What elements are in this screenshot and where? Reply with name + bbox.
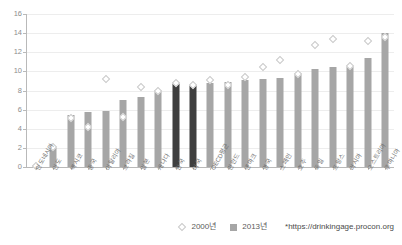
- legend-item-2000: 2000년: [179, 223, 216, 231]
- chart-column: [324, 14, 341, 167]
- marker-2000: [259, 62, 267, 70]
- marker-2000: [329, 35, 337, 43]
- chart-column: [254, 14, 271, 167]
- plot-area: [26, 14, 394, 168]
- bar-2013: [172, 84, 179, 167]
- legend-label-2000: 2000년: [191, 223, 216, 231]
- bar-2013: [137, 97, 144, 167]
- source-note: *https://drinkingage.procon.org: [285, 223, 394, 231]
- legend-label-2013: 2013년: [242, 223, 267, 231]
- chart-column: [237, 14, 254, 167]
- bar-2013: [364, 58, 371, 167]
- marker-2000: [311, 40, 319, 48]
- chart-column: [202, 14, 219, 167]
- bar-2013: [190, 85, 197, 167]
- bar-2013: [224, 82, 231, 167]
- bar-2013: [277, 78, 284, 167]
- y-axis-tick-mark: [23, 91, 26, 92]
- y-axis-tick-mark: [23, 71, 26, 72]
- chart-column: [167, 14, 184, 167]
- y-axis-tick-label: 4: [2, 125, 22, 133]
- y-axis-tick-mark: [23, 52, 26, 53]
- marker-2000: [364, 37, 372, 45]
- y-axis-tick-mark: [23, 14, 26, 15]
- y-axis-tick-mark: [23, 129, 26, 130]
- bars-layer: [27, 14, 394, 167]
- chart-column: [114, 14, 131, 167]
- chart-column: [97, 14, 114, 167]
- chart-column: [184, 14, 201, 167]
- bar-2013: [329, 67, 336, 167]
- y-axis-tick-label: 8: [2, 87, 22, 95]
- legend-item-2013: 2013년: [230, 223, 267, 231]
- chart-column: [307, 14, 324, 167]
- bar-swatch-icon: [230, 224, 237, 231]
- bar-2013: [207, 83, 214, 167]
- chart-column: [27, 14, 44, 167]
- bar-2013: [347, 67, 354, 167]
- chart-column: [359, 14, 376, 167]
- chart-column: [272, 14, 289, 167]
- y-axis-tick-label: 2: [2, 144, 22, 152]
- marker-2000: [276, 56, 284, 64]
- marker-2000: [136, 82, 144, 90]
- y-axis-tick-mark: [23, 33, 26, 34]
- y-axis-tick-label: 12: [2, 49, 22, 57]
- alcohol-consumption-chart: 0246810121416 인도네시아인도멕시코중국이탈리아브라질일본캐나다한국…: [0, 0, 402, 245]
- bar-2013: [312, 69, 319, 167]
- bar-2013: [120, 100, 127, 167]
- marker-2000: [101, 75, 109, 83]
- chart-column: [79, 14, 96, 167]
- diamond-marker-icon: [178, 223, 186, 231]
- bar-2013: [294, 73, 301, 167]
- y-axis-tick-label: 16: [2, 10, 22, 18]
- y-axis-tick-label: 14: [2, 29, 22, 37]
- bar-2013: [259, 79, 266, 167]
- x-axis-labels: 인도네시아인도멕시코중국이탈리아브라질일본캐나다한국미국OECD평균핀란드덴마크…: [26, 168, 394, 214]
- y-axis-tick-label: 0: [2, 163, 22, 171]
- chart-column: [149, 14, 166, 167]
- y-axis-tick-mark: [23, 148, 26, 149]
- y-axis-tick-label: 6: [2, 106, 22, 114]
- chart-legend: 2000년 2013년 *https://drinkingage.procon.…: [0, 219, 402, 235]
- y-axis-tick-label: 10: [2, 68, 22, 76]
- y-axis-tick-mark: [23, 110, 26, 111]
- chart-column: [342, 14, 359, 167]
- bar-2013: [155, 90, 162, 167]
- chart-column: [62, 14, 79, 167]
- chart-column: [132, 14, 149, 167]
- bar-2013: [242, 80, 249, 167]
- chart-column: [289, 14, 306, 167]
